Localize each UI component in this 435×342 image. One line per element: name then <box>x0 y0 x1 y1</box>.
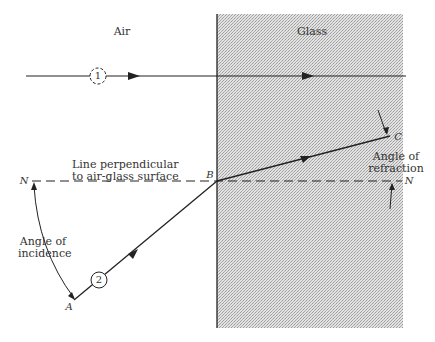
point-b: B <box>204 169 216 181</box>
incidence-label-2: incidence <box>18 248 68 260</box>
air-label: Air <box>107 26 137 38</box>
refraction-diagram: Air Glass 1 2 N B C N A Line perpendicul… <box>0 0 435 342</box>
ray-2-number: 2 <box>93 274 105 286</box>
point-a: A <box>63 301 75 313</box>
point-n-right: N <box>403 175 415 187</box>
incidence-arrow-top-icon <box>31 182 37 190</box>
angle-of-refraction-label: Angle of refraction <box>368 151 424 175</box>
point-c: C <box>392 131 404 143</box>
incidence-arrow-bottom-icon <box>68 292 75 300</box>
angle-of-incidence-label: Angle of incidence <box>18 236 68 260</box>
normal-line-caption-2: to air-glass surface <box>72 171 172 183</box>
refraction-label-2: refraction <box>368 163 424 175</box>
ray-1-arrow-icon <box>128 72 140 80</box>
point-n-left: N <box>18 175 30 187</box>
ray-1-number: 1 <box>92 70 104 82</box>
normal-line-caption: Line perpendicular to air-glass surface <box>72 159 172 183</box>
glass-label: Glass <box>292 26 332 38</box>
